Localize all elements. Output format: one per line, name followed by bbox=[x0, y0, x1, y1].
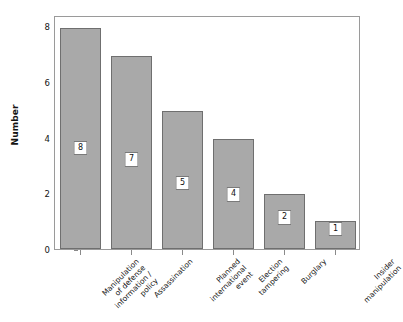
x-tick-label: Insidermanipulation bbox=[355, 257, 403, 305]
y-axis-title-text: Number bbox=[10, 105, 20, 146]
bar-value-label: 4 bbox=[227, 187, 240, 202]
x-tick-mark bbox=[131, 250, 132, 255]
y-tick-label: 0 bbox=[45, 244, 50, 256]
bar[interactable]: 7 bbox=[111, 56, 152, 249]
bar-value-label: 7 bbox=[125, 152, 138, 167]
bar-value-label: 1 bbox=[329, 222, 342, 237]
x-tick-label-line: Burglary bbox=[299, 257, 328, 286]
bar-value-label: 8 bbox=[74, 141, 87, 156]
bar[interactable]: 4 bbox=[213, 139, 254, 249]
x-tick-label: Plannedinternationalevent bbox=[201, 257, 254, 310]
x-tick-mark bbox=[284, 250, 285, 255]
bar[interactable]: 8 bbox=[60, 28, 101, 249]
plot-area: 875421 bbox=[54, 16, 360, 250]
x-tick-mark bbox=[335, 250, 336, 255]
y-axis-ticks: 02468 bbox=[24, 0, 50, 322]
y-tick-label: 4 bbox=[45, 133, 50, 145]
x-tick-mark bbox=[233, 250, 234, 255]
x-tick-mark bbox=[182, 250, 183, 255]
x-tick-label: Electiontampering bbox=[250, 257, 290, 297]
bar[interactable]: 1 bbox=[315, 221, 356, 249]
x-tick-label-line: Assassination bbox=[151, 257, 194, 300]
y-tick-label: 2 bbox=[45, 188, 50, 200]
x-tick-label: Assassination bbox=[151, 257, 194, 300]
x-tick-mark bbox=[80, 250, 81, 255]
x-tick-label: Burglary bbox=[299, 257, 328, 286]
bar-value-label: 5 bbox=[176, 176, 189, 191]
bar[interactable]: 2 bbox=[264, 194, 305, 249]
y-tick-label: 8 bbox=[45, 21, 50, 33]
bar-value-label: 2 bbox=[278, 210, 291, 225]
y-tick-label: 6 bbox=[45, 77, 50, 89]
x-tick-label: Manipulationof defenseinformation /polic… bbox=[100, 257, 160, 317]
y-axis-title: Number bbox=[4, 0, 26, 250]
bar[interactable]: 5 bbox=[162, 111, 203, 249]
